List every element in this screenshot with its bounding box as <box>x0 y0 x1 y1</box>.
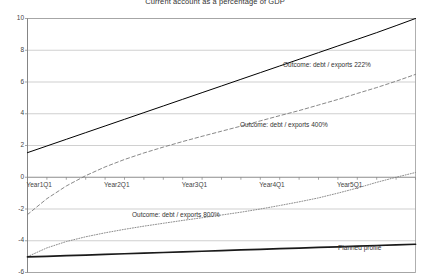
y-axis-label: -2 <box>2 205 24 212</box>
series-annotation: Outcome: debt / exports 400% <box>240 121 328 128</box>
series-annotation: Outcome: debt / exports 222% <box>283 61 371 68</box>
y-axis-label: 8 <box>2 46 24 53</box>
x-axis-label: Year5Q1 <box>337 181 362 188</box>
data-series-group <box>28 19 416 257</box>
x-axis-label: Year1Q1 <box>27 181 52 188</box>
series-annotation: Planned profile <box>338 244 381 251</box>
series-line-1 <box>28 19 416 153</box>
x-axis-label: Year4Q1 <box>259 181 284 188</box>
y-axis-label: 10 <box>2 14 24 21</box>
y-axis-label: 6 <box>2 78 24 85</box>
y-axis-label: 4 <box>2 109 24 116</box>
chart-container: Current account as a percentage of GDP -… <box>0 0 430 280</box>
x-axis-label: Year2Q1 <box>104 181 129 188</box>
y-axis-label: -6 <box>2 268 24 275</box>
y-axis-label: -4 <box>2 236 24 243</box>
series-line-2 <box>28 74 416 214</box>
y-axis-label: 0 <box>2 173 24 180</box>
x-axis-label: Year3Q1 <box>182 181 207 188</box>
chart-plot-area <box>0 0 430 280</box>
series-annotation: Outcome: debt / exports 800% <box>132 211 220 218</box>
y-axis-label: 2 <box>2 141 24 148</box>
gridlines-group <box>28 19 416 273</box>
